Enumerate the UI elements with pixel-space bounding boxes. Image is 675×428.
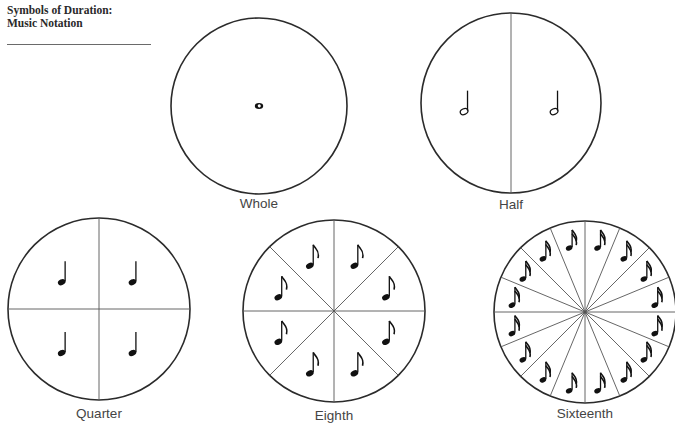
sixteenth-note-icon <box>508 316 520 338</box>
half-label: Half <box>499 197 523 212</box>
eighth-note-icon <box>305 245 318 270</box>
eighth-note-icon <box>350 245 363 270</box>
whole-label: Whole <box>240 196 278 211</box>
eighth-note-icon <box>381 321 394 346</box>
quarter-note-icon <box>57 332 67 357</box>
sixteenth-note-icon <box>593 373 605 395</box>
sixteenth-label: Sixteenth <box>557 406 613 421</box>
quarter-note-icon <box>128 261 138 286</box>
eighth-note-icon <box>350 352 363 377</box>
sixteenth-note-icon <box>508 287 520 309</box>
half-note-icon <box>459 91 469 116</box>
half-diagram: Half <box>421 13 601 212</box>
sixteenth-note-icon <box>519 261 531 283</box>
eighth-note-icon <box>381 276 394 301</box>
sixteenth-note-icon <box>651 316 663 338</box>
eighth-note-icon <box>273 276 286 301</box>
whole-diagram: Whole <box>171 18 347 211</box>
whole-note-icon <box>255 103 263 109</box>
eighth-diagram: Eighth <box>243 220 425 423</box>
sixteenth-note-icon <box>640 342 652 364</box>
sixteenth-note-icon <box>539 241 551 263</box>
sixteenth-note-icon <box>640 261 652 283</box>
half-note-icon <box>549 91 559 116</box>
sixteenth-note-icon <box>565 373 577 395</box>
sixteenth-diagram: Sixteenth <box>494 221 675 421</box>
sixteenth-note-icon <box>593 230 605 252</box>
quarter-note-icon <box>57 261 67 286</box>
notation-diagrams: Whole Half Quarter Eighth Sixteenth <box>0 0 675 428</box>
sixteenth-note-icon <box>565 230 577 252</box>
quarter-label: Quarter <box>76 406 122 421</box>
sixteenth-note-icon <box>620 241 632 263</box>
sixteenth-note-icon <box>620 362 632 384</box>
eighth-note-icon <box>273 321 286 346</box>
sixteenth-note-icon <box>539 362 551 384</box>
quarter-note-icon <box>128 332 138 357</box>
sixteenth-note-icon <box>519 342 531 364</box>
quarter-diagram: Quarter <box>8 218 190 421</box>
sixteenth-note-icon <box>651 287 663 309</box>
eighth-note-icon <box>305 352 318 377</box>
eighth-label: Eighth <box>315 408 353 423</box>
